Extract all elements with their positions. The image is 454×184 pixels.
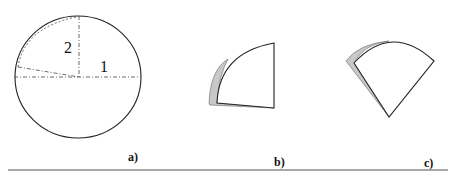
figure-diagram: 2 1 a) b) c) — [0, 0, 454, 184]
quarter-sector — [217, 43, 274, 108]
panel-c: c) — [346, 41, 434, 170]
rotated-sector — [354, 42, 434, 117]
caption-b: b) — [274, 155, 285, 169]
panel-a: 2 1 a) — [14, 16, 141, 164]
label-1: 1 — [100, 58, 108, 75]
tilted-radius — [18, 67, 79, 77]
panel-b: b) — [209, 43, 285, 169]
label-2: 2 — [64, 39, 72, 56]
caption-a: a) — [128, 150, 138, 164]
caption-c: c) — [424, 156, 433, 170]
